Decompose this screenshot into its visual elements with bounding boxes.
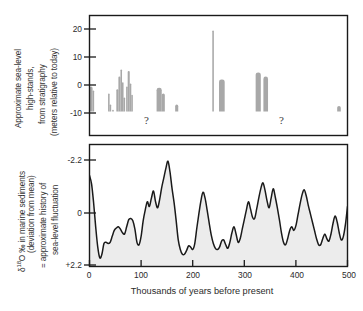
highstand-bar (128, 71, 130, 112)
highstand-bar (157, 88, 162, 112)
highstand-bar (93, 91, 95, 112)
highstand-bar (212, 30, 214, 111)
highstand-bar (162, 93, 165, 111)
delta-o18-area-fill (90, 161, 348, 266)
highstand-bar (110, 105, 112, 112)
highstand-bar (131, 95, 133, 112)
highstand-bar (120, 70, 122, 112)
highstand-bar (118, 77, 120, 112)
highstand-bar (116, 89, 118, 111)
highstand-bar (256, 72, 261, 111)
highstand-bar (175, 105, 178, 112)
highstand-bar (122, 82, 124, 111)
sea-level-highstand-bars (90, 30, 341, 111)
highstand-bar (124, 98, 126, 112)
highstand-bar (126, 86, 128, 111)
highstand-bar (263, 77, 268, 112)
highstand-bar (130, 84, 132, 112)
figure-root: Approximate sea-level high-stands, from … (0, 0, 363, 311)
bottom-panel (84, 145, 348, 267)
highstand-bar (108, 93, 110, 111)
highstand-bar (219, 79, 225, 111)
highstand-bar (112, 110, 114, 112)
plot-canvas (0, 0, 363, 311)
highstand-bar (337, 106, 341, 112)
top-panel (84, 16, 348, 136)
